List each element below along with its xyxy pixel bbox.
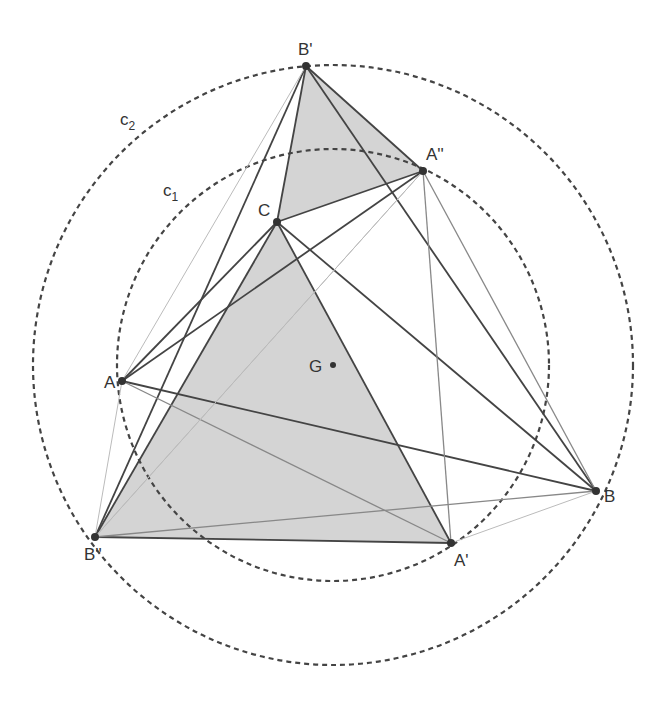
point-label: A xyxy=(104,373,116,392)
point-label: G xyxy=(309,357,322,376)
point-label: C xyxy=(258,201,270,220)
point-label: A'' xyxy=(426,145,444,164)
point-label: B' xyxy=(298,40,313,59)
circle-label-c1: c1 xyxy=(163,181,179,204)
point-B[interactable] xyxy=(592,487,600,495)
point-label: B'' xyxy=(84,545,102,564)
point-G[interactable] xyxy=(330,362,336,368)
point-B'[interactable] xyxy=(302,62,310,70)
point-B''[interactable] xyxy=(91,533,99,541)
segment-light xyxy=(451,491,596,543)
shaded-triangle xyxy=(95,222,451,543)
segment-light xyxy=(423,171,596,491)
point-C[interactable] xyxy=(273,218,281,226)
point-A''[interactable] xyxy=(419,167,427,175)
point-A[interactable] xyxy=(118,377,126,385)
shaded-triangle xyxy=(277,66,423,222)
diagram-canvas: c1c2 ABCA'B'A''B''G xyxy=(0,0,656,705)
point-A'[interactable] xyxy=(447,539,455,547)
segment-light xyxy=(423,171,451,543)
circle-label-c2: c2 xyxy=(120,110,136,133)
point-label: A' xyxy=(454,551,469,570)
point-label: B xyxy=(604,487,615,506)
